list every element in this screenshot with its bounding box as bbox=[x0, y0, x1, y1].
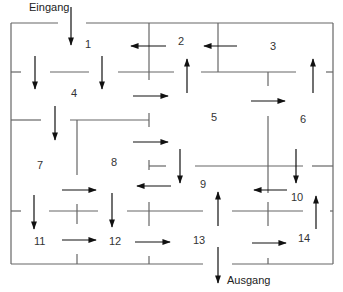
room-label-12: 12 bbox=[109, 236, 121, 247]
room-label-13: 13 bbox=[193, 235, 205, 246]
room-label-11: 11 bbox=[34, 236, 45, 247]
room-label-6: 6 bbox=[300, 114, 306, 125]
room-label-14: 14 bbox=[298, 233, 310, 244]
room-label-4: 4 bbox=[71, 88, 77, 99]
room-label-2: 2 bbox=[178, 36, 184, 47]
room-label-1: 1 bbox=[85, 39, 91, 50]
exit-label: Ausgang bbox=[227, 275, 270, 286]
room-label-8: 8 bbox=[111, 157, 117, 168]
walls bbox=[11, 23, 333, 264]
maze-diagram bbox=[0, 0, 343, 292]
room-label-3: 3 bbox=[270, 41, 276, 52]
room-label-7: 7 bbox=[37, 160, 43, 171]
entrance-label: Eingang bbox=[29, 2, 69, 13]
room-label-9: 9 bbox=[200, 179, 206, 190]
room-label-5: 5 bbox=[211, 112, 217, 123]
room-label-10: 10 bbox=[291, 192, 303, 203]
